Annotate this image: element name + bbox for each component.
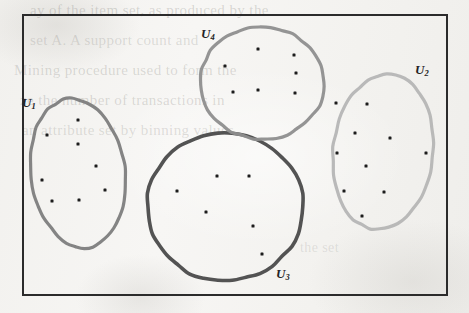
set-point-u1-7 <box>51 200 54 203</box>
set-label-letter: U <box>201 26 210 41</box>
set-point-u4-6 <box>257 89 260 92</box>
set-outline-u2 <box>333 74 434 230</box>
set-point-u3-3 <box>176 190 179 193</box>
set-point-u2-5 <box>336 152 339 155</box>
set-point-u2-1 <box>335 102 338 105</box>
set-label-u4: U4 <box>201 26 215 42</box>
set-point-u4-1 <box>257 48 260 51</box>
set-point-u1-4 <box>95 165 98 168</box>
set-label-letter: U <box>276 266 285 281</box>
set-point-u1-1 <box>77 119 80 122</box>
set-point-u3-4 <box>205 211 208 214</box>
set-point-u3-5 <box>252 225 255 228</box>
set-label-u3: U3 <box>276 266 290 282</box>
set-label-subscript: 3 <box>285 272 289 282</box>
set-point-u2-9 <box>383 191 386 194</box>
set-diagram-canvas <box>0 0 469 313</box>
set-label-subscript: 4 <box>210 32 214 42</box>
set-label-u1: U1 <box>22 95 36 111</box>
set-point-u4-5 <box>232 91 235 94</box>
figure-root: ay of the item set, as produced by these… <box>0 0 469 313</box>
set-point-u2-6 <box>425 152 428 155</box>
set-point-u3-6 <box>261 253 264 256</box>
set-point-u4-2 <box>293 54 296 57</box>
set-point-u1-2 <box>46 134 49 137</box>
set-label-letter: U <box>415 62 424 77</box>
set-point-u3-2 <box>248 175 251 178</box>
set-point-u1-3 <box>77 143 80 146</box>
set-point-u1-5 <box>41 179 44 182</box>
set-outline-u4 <box>201 27 325 139</box>
set-point-u4-4 <box>295 72 298 75</box>
set-label-letter: U <box>22 95 31 110</box>
set-point-u2-2 <box>366 103 369 106</box>
set-label-subscript: 1 <box>31 101 35 111</box>
set-outline-u3 <box>147 133 303 281</box>
set-point-u1-8 <box>78 199 81 202</box>
set-label-u2: U2 <box>415 62 429 78</box>
set-point-u2-10 <box>361 215 364 218</box>
set-point-u3-1 <box>216 175 219 178</box>
set-point-u2-7 <box>365 165 368 168</box>
set-point-u4-3 <box>224 65 227 68</box>
set-point-u2-8 <box>343 190 346 193</box>
set-point-u1-6 <box>104 189 107 192</box>
set-point-u2-3 <box>354 132 357 135</box>
universe-rectangle-border <box>23 15 447 295</box>
set-point-u2-4 <box>389 137 392 140</box>
set-point-u4-7 <box>294 92 297 95</box>
universe-rectangle-group <box>23 15 447 295</box>
set-label-subscript: 2 <box>424 68 428 78</box>
set-outlines-group <box>30 27 433 281</box>
